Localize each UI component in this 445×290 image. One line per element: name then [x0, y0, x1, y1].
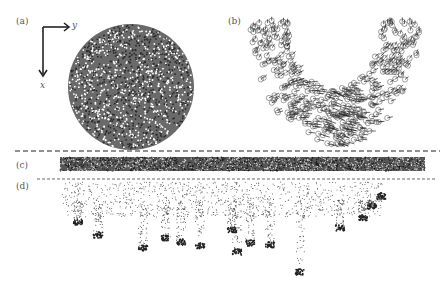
panel-b-vectors: [248, 17, 422, 147]
panel-c-strip: [59, 156, 425, 171]
axes-arrows-icon: [39, 23, 69, 76]
figure-canvas: [0, 0, 445, 290]
panel-d-fingers: [62, 182, 386, 276]
panel-a-particles: [68, 24, 194, 150]
